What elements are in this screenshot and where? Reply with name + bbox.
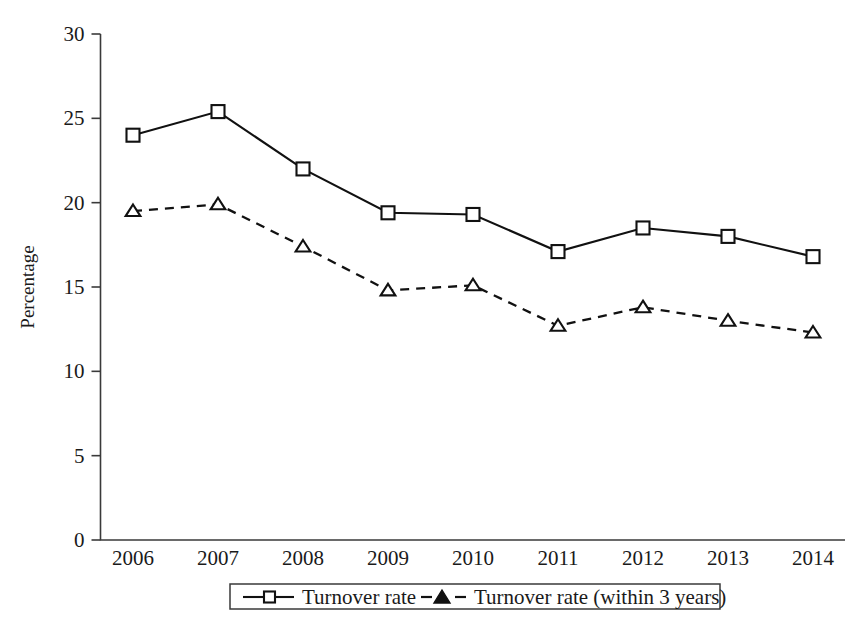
- x-tick-label-2008: 2008: [282, 546, 324, 570]
- y-tick-label-15: 15: [64, 275, 85, 299]
- data-point-2009: [382, 206, 395, 219]
- data-point-2011: [552, 245, 565, 258]
- data-point-2011: [551, 319, 566, 331]
- series-line-1: [133, 112, 813, 257]
- legend-marker-square: [264, 592, 275, 603]
- chart-series: [126, 105, 821, 337]
- data-point-2007: [211, 198, 226, 210]
- data-point-2012: [637, 221, 650, 234]
- x-tick-labels: 200620072008200920102011201220132014: [112, 546, 835, 570]
- y-axis-label: Percentage: [17, 245, 38, 328]
- data-point-2008: [297, 162, 310, 175]
- data-point-2010: [467, 208, 480, 221]
- x-tick-label-2007: 2007: [197, 546, 239, 570]
- legend-label-turnover-rate-3yr: Turnover rate (within 3 years): [474, 585, 726, 609]
- chart-legend: Turnover rate Turnover rate (within 3 ye…: [230, 584, 726, 609]
- chart-axes: 051015202530 200620072008200920102011201…: [17, 22, 845, 570]
- y-tick-marks: [92, 34, 101, 540]
- line-chart: 051015202530 200620072008200920102011201…: [0, 0, 847, 635]
- data-point-2013: [722, 230, 735, 243]
- data-point-2007: [212, 105, 225, 118]
- x-tick-label-2010: 2010: [452, 546, 494, 570]
- series-line-2: [133, 204, 813, 332]
- y-tick-label-0: 0: [74, 528, 85, 552]
- data-point-2012: [636, 301, 651, 313]
- y-tick-label-20: 20: [64, 191, 85, 215]
- x-tick-label-2014: 2014: [792, 546, 835, 570]
- x-tick-label-2011: 2011: [537, 546, 578, 570]
- legend-label-turnover-rate: Turnover rate: [302, 585, 416, 609]
- data-point-2013: [721, 314, 736, 326]
- data-point-2008: [296, 240, 311, 252]
- data-point-2014: [807, 250, 820, 263]
- y-tick-label-25: 25: [64, 106, 85, 130]
- y-tick-labels: 051015202530: [64, 22, 85, 552]
- y-tick-label-10: 10: [64, 359, 85, 383]
- x-tick-label-2009: 2009: [367, 546, 409, 570]
- x-tick-label-2013: 2013: [707, 546, 749, 570]
- series-1: [127, 105, 820, 263]
- x-tick-label-2012: 2012: [622, 546, 664, 570]
- y-tick-label-5: 5: [74, 444, 85, 468]
- chart-figure: 051015202530 200620072008200920102011201…: [0, 0, 847, 635]
- data-point-2006: [127, 129, 140, 142]
- x-tick-label-2006: 2006: [112, 546, 154, 570]
- y-tick-label-30: 30: [64, 22, 85, 46]
